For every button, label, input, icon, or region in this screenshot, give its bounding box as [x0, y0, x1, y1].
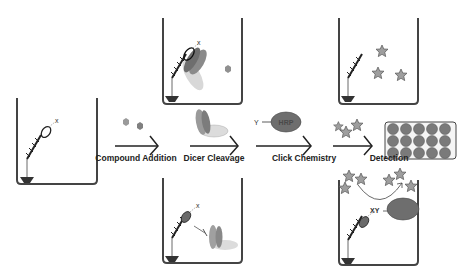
well-dicer-bound: x: [163, 18, 242, 104]
svg-text:x: x: [197, 39, 201, 46]
tag-x: x: [55, 117, 59, 124]
svg-text:HRP: HRP: [279, 119, 294, 126]
arrow-detection: [333, 136, 372, 155]
well-start: x: [17, 98, 97, 184]
workflow-diagram: x Y HRP: [0, 0, 476, 271]
compound-icon: [123, 118, 143, 130]
well-cleaved-detection: [339, 18, 418, 104]
step-label-click-chemistry: Click Chemistry: [272, 153, 336, 163]
well-uncleaved-detection: XY: [339, 168, 419, 265]
step-label-dicer-cleavage: Dicer Cleavage: [184, 153, 245, 163]
hrp-reagent-icon: Y HRP: [254, 112, 301, 132]
svg-text:x: x: [196, 202, 200, 209]
svg-text:Y: Y: [254, 119, 259, 126]
well-dicer-inhibited: x: [163, 178, 242, 263]
product-stars: [334, 119, 363, 138]
dicer-enzyme-icon: [194, 108, 228, 137]
step-label-compound-addition: Compound Addition: [95, 153, 176, 163]
step-label-detection: Detection: [370, 153, 409, 163]
svg-text:XY: XY: [370, 207, 380, 214]
